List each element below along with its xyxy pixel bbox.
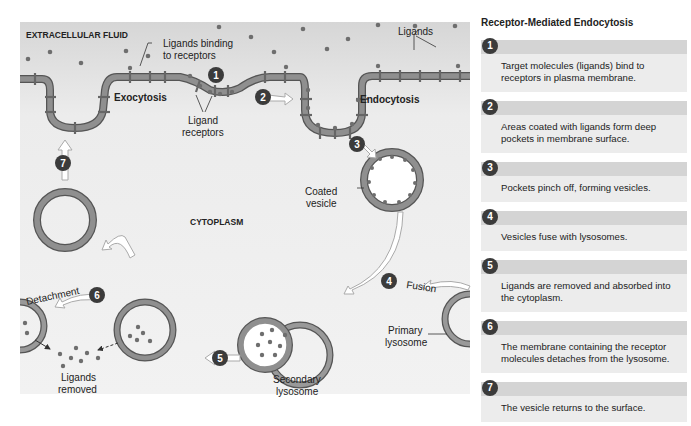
step-marker-1: 1 bbox=[208, 67, 224, 83]
step-description: The vesicle returns to the surface. bbox=[481, 396, 687, 422]
svg-text:3: 3 bbox=[354, 139, 360, 150]
coated-vesicle-label-line1: Coated bbox=[305, 186, 337, 197]
step-marker-4: 4 bbox=[381, 273, 397, 289]
svg-text:6: 6 bbox=[94, 290, 100, 301]
step-description: Vesicles fuse with lysosomes. bbox=[481, 225, 687, 251]
step-number-badge: 1 bbox=[482, 38, 498, 54]
step-marker-6: 6 bbox=[89, 287, 105, 303]
step-number-badge: 3 bbox=[482, 160, 498, 176]
step-number-badge: 4 bbox=[482, 209, 498, 225]
coated-vesicle-label-line2: vesicle bbox=[306, 198, 337, 209]
primary-lysosome-label-line2: lysosome bbox=[385, 337, 428, 348]
step-card-5: 5 Ligands are removed and absorbed into … bbox=[481, 260, 687, 312]
step-number-badge: 6 bbox=[482, 319, 498, 335]
step-card-2: 2 Areas coated with ligands form deep po… bbox=[481, 101, 687, 153]
step-card-3: 3 Pockets pinch off, forming vesicles. bbox=[481, 162, 687, 202]
svg-text:7: 7 bbox=[60, 158, 66, 169]
step-description: Ligands are removed and absorbed into th… bbox=[481, 274, 687, 312]
step-card-4: 4 Vesicles fuse with lysosomes. bbox=[481, 211, 687, 251]
ligands-label: Ligands bbox=[398, 26, 433, 37]
step-description: The membrane containing the receptor mol… bbox=[481, 335, 687, 373]
cytoplasm-label: CYTOPLASM bbox=[190, 217, 243, 227]
step-card-7: 7 The vesicle returns to the surface. bbox=[481, 382, 687, 422]
extracellular-fluid-label: EXTRACELLULAR FLUID bbox=[26, 30, 128, 40]
step-marker-3: 3 bbox=[349, 136, 365, 152]
primary-lysosome-label-line1: Primary bbox=[388, 325, 422, 336]
step-description: Pockets pinch off, forming vesicles. bbox=[481, 176, 687, 202]
secondary-lysosome-label-line2: lysosome bbox=[276, 386, 319, 397]
ligands-binding-label-line2: to receptors bbox=[163, 50, 216, 61]
panel-title: Receptor-Mediated Endocytosis bbox=[481, 16, 687, 30]
step-description: Target molecules (ligands) bind to recep… bbox=[481, 54, 687, 92]
ligands-removed-label-line2: removed bbox=[58, 384, 97, 395]
svg-text:4: 4 bbox=[386, 276, 392, 287]
step-marker-5: 5 bbox=[212, 350, 228, 366]
step-description: Areas coated with ligands form deep pock… bbox=[481, 115, 687, 153]
step-marker-7: 7 bbox=[55, 155, 71, 171]
exocytosis-label: Exocytosis bbox=[114, 92, 167, 103]
svg-text:2: 2 bbox=[260, 92, 266, 103]
step-card-1: 1 Target molecules (ligands) bind to rec… bbox=[481, 40, 687, 92]
ligand-receptors-label-line2: receptors bbox=[182, 127, 224, 138]
ligands-removed-label-line1: Ligands bbox=[61, 372, 96, 383]
step-number-badge: 5 bbox=[482, 258, 498, 274]
svg-text:1: 1 bbox=[213, 70, 219, 81]
steps-panel: Receptor-Mediated Endocytosis 1 Target m… bbox=[481, 16, 687, 426]
step-marker-2: 2 bbox=[255, 89, 271, 105]
svg-text:5: 5 bbox=[217, 353, 223, 364]
ligand-receptors-label-line1: Ligand bbox=[188, 115, 218, 126]
endocytosis-label: Endocytosis bbox=[360, 94, 420, 105]
ligands-binding-label-line1: Ligands binding bbox=[163, 38, 233, 49]
secondary-lysosome-label-line1: Secondary bbox=[273, 374, 321, 385]
step-card-6: 6 The membrane containing the receptor m… bbox=[481, 321, 687, 373]
step-number-badge: 7 bbox=[482, 380, 498, 396]
step-number-badge: 2 bbox=[482, 99, 498, 115]
coated-vesicle bbox=[364, 152, 420, 208]
